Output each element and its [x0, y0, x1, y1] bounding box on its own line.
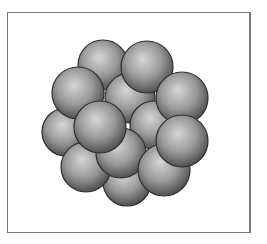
sphere-cluster: [0, 0, 267, 244]
sphere-right-front: [156, 115, 208, 167]
sphere-center-left-front: [74, 101, 126, 153]
